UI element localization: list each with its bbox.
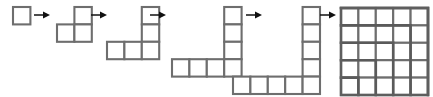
grid-cell	[224, 7, 241, 24]
grid-cell	[303, 77, 320, 94]
grid-cell	[285, 77, 302, 94]
stage-figure-5	[233, 7, 320, 94]
grid-cell	[57, 24, 74, 41]
grid-cell	[358, 60, 375, 77]
grid-cell	[341, 8, 358, 25]
grid-cell	[172, 59, 189, 76]
grid-cell	[124, 42, 141, 59]
stage-figure-2	[57, 7, 92, 42]
grid-cell	[189, 59, 206, 76]
figure-svg-canvas	[0, 0, 433, 97]
grid-cell	[142, 24, 159, 41]
grid-cell	[376, 43, 393, 60]
arrow-2	[91, 11, 107, 18]
grid-cell	[411, 25, 428, 42]
grid-cell	[268, 77, 285, 94]
arrow-head-icon	[100, 11, 107, 18]
grid-cell	[341, 25, 358, 42]
grid-cell	[303, 7, 320, 24]
grid-cell	[393, 25, 410, 42]
grid-cell	[303, 59, 320, 76]
grid-cell	[411, 8, 428, 25]
arrow-head-icon	[159, 11, 166, 18]
stage-figure-6	[341, 8, 428, 95]
grid-cell	[13, 7, 30, 24]
grid-cell	[250, 77, 267, 94]
arrow-4	[246, 11, 262, 18]
stage-figure-1	[13, 7, 30, 24]
grid-cell	[303, 42, 320, 59]
grid-cell	[358, 43, 375, 60]
stage-figure-4	[172, 7, 242, 77]
grid-cell	[393, 43, 410, 60]
grid-cell	[358, 78, 375, 95]
grid-cell	[142, 42, 159, 59]
grid-cell	[411, 43, 428, 60]
grid-cell	[411, 60, 428, 77]
grid-cell	[393, 60, 410, 77]
grid-cell	[224, 59, 241, 76]
grid-cell	[303, 24, 320, 41]
grid-cell	[393, 78, 410, 95]
grid-cell	[376, 78, 393, 95]
grid-cell	[341, 78, 358, 95]
grid-cell	[233, 77, 250, 94]
grid-cell	[376, 60, 393, 77]
grid-cell	[393, 8, 410, 25]
grid-cell	[341, 60, 358, 77]
stages-layer	[13, 7, 428, 95]
arrow-head-icon	[329, 11, 336, 18]
grid-cell	[224, 24, 241, 41]
grid-cell	[207, 59, 224, 76]
grid-cell	[224, 42, 241, 59]
grid-cell	[358, 8, 375, 25]
grid-cell	[376, 25, 393, 42]
grid-cell	[107, 42, 124, 59]
grid-cell	[74, 24, 91, 41]
grid-cell	[74, 7, 91, 24]
arrow-head-icon	[255, 11, 262, 18]
grid-cell	[376, 8, 393, 25]
arrow-head-icon	[43, 11, 50, 18]
arrow-1	[34, 11, 50, 18]
grid-cell	[358, 25, 375, 42]
grid-cell	[411, 78, 428, 95]
grid-cell	[341, 43, 358, 60]
arrow-5	[320, 11, 336, 18]
gnomon-sequence-figure: Square numbers built from gnomons A left…	[0, 0, 433, 97]
